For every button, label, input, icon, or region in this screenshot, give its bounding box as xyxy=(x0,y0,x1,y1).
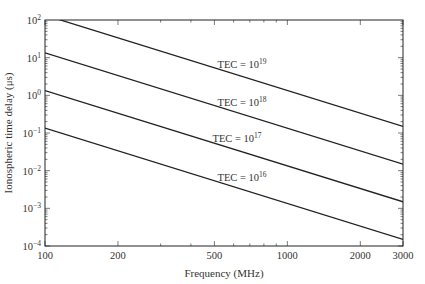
x-tick-label: 1000 xyxy=(277,250,298,261)
x-tick-label: 3000 xyxy=(393,250,414,261)
series-annotation: TEC = 1018 xyxy=(218,95,267,108)
y-axis-label: Ionospheric time delay (μs) xyxy=(2,72,15,193)
x-tick-label: 500 xyxy=(207,250,223,261)
chart: TEC = 1019TEC = 1018TEC = 1017TEC = 1016… xyxy=(0,0,425,284)
y-tick-label: 10−1 xyxy=(23,126,42,139)
y-tick-label: 102 xyxy=(27,13,42,26)
series-annotation: TEC = 1017 xyxy=(213,131,262,144)
x-tick-label: 2000 xyxy=(350,250,371,261)
series-line xyxy=(45,128,403,239)
series-line xyxy=(45,15,403,126)
x-axis-label: Frequency (MHz) xyxy=(184,267,263,280)
y-tick-label: 10−3 xyxy=(23,201,42,214)
x-tick-label: 100 xyxy=(37,250,53,261)
y-tick-label: 101 xyxy=(27,51,42,64)
lines-layer xyxy=(45,15,403,239)
y-tick-label: 10−2 xyxy=(23,164,42,177)
y-tick-label: 100 xyxy=(27,88,42,101)
series-annotation: TEC = 1019 xyxy=(218,57,267,70)
x-tick-label: 200 xyxy=(110,250,126,261)
series-annotation: TEC = 1016 xyxy=(218,170,267,183)
